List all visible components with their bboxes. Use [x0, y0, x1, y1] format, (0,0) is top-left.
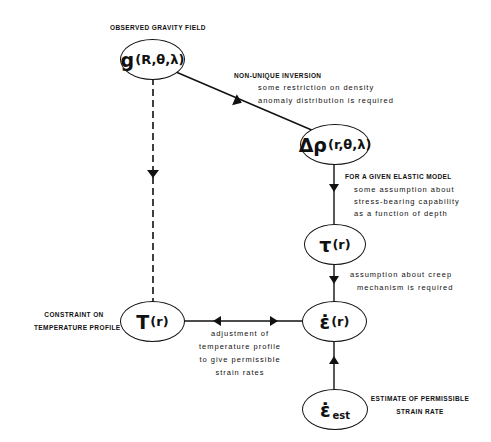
temperature-label: CONSTRAINT ON TEMPERATURE PROFILE	[34, 308, 114, 334]
annotation-line: temperature profile	[190, 340, 290, 353]
annotation-line: to give permissible	[190, 353, 290, 366]
node-gravity-field: g (R,θ,λ)	[120, 39, 185, 80]
node-density-anomaly: Δρ (r,θ,λ)	[300, 124, 370, 165]
arrowhead-left-icon	[213, 316, 221, 326]
annotation-line: adjustment of	[190, 327, 290, 340]
node-args: (r)	[150, 314, 168, 329]
annotation-line: strain rates	[190, 366, 290, 379]
temperature-label-line2: TEMPERATURE PROFILE	[34, 321, 114, 334]
annotation-line: as a function of depth	[354, 207, 448, 220]
node-symbol: g	[121, 49, 135, 71]
annotation-line: assumption about creep	[350, 268, 452, 281]
node-symbol: Δρ	[299, 134, 327, 156]
node-stress: τ (r)	[304, 224, 366, 265]
arrowhead-icon	[329, 276, 339, 284]
annotation-line: anomaly distribution is required	[258, 94, 394, 107]
node-strain-rate: ε̇ (r)	[302, 301, 367, 342]
node-symbol: ε̇	[320, 399, 331, 421]
node-args: (r)	[332, 237, 350, 252]
annotation-line: some restriction on density	[258, 81, 374, 94]
strain-estimate-label-line1: ESTIMATE OF PERMISSIBLE	[370, 392, 470, 405]
temperature-label-line1: CONSTRAINT ON	[34, 308, 114, 321]
node-args: (r)	[331, 314, 349, 329]
node-symbol: τ	[319, 234, 331, 256]
arrowhead-icon	[329, 184, 339, 192]
arrowhead-right-icon	[270, 316, 278, 326]
annotation-line: mechanism is required	[357, 281, 453, 294]
node-strain-estimate: ε̇ est	[302, 389, 368, 430]
node-args: (r,θ,λ)	[328, 137, 371, 152]
annotation-temperature-strain: adjustment of temperature profile to giv…	[190, 327, 290, 379]
arrowhead-icon	[147, 170, 159, 178]
strain-estimate-label-line2: STRAIN RATE	[370, 405, 470, 418]
node-temperature: T (r)	[120, 301, 185, 342]
node-symbol: T	[136, 311, 149, 333]
node-args: (R,θ,λ)	[135, 52, 184, 67]
arrowhead-icon	[329, 356, 339, 364]
annotation-title: FOR A GIVEN ELASTIC MODEL	[345, 170, 452, 183]
gravity-label: OBSERVED GRAVITY FIELD	[110, 21, 206, 34]
node-subscript: est	[333, 410, 351, 421]
strain-estimate-label: ESTIMATE OF PERMISSIBLE STRAIN RATE	[370, 392, 470, 418]
node-symbol: ε̇	[320, 311, 331, 333]
